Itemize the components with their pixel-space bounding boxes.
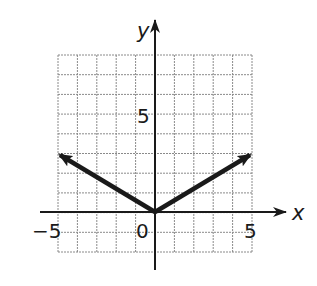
coordinate-plane: y x −5 0 5 5 — [0, 0, 317, 286]
curve-left-ray — [60, 155, 155, 212]
x-tick-label-neg5: −5 — [32, 219, 61, 243]
x-axis-label: x — [291, 201, 305, 225]
x-tick-label-pos5: 5 — [244, 219, 257, 243]
curve-right-ray — [155, 155, 250, 212]
y-tick-label-5: 5 — [137, 104, 150, 128]
y-axis-label: y — [136, 19, 150, 43]
origin-label: 0 — [136, 219, 149, 243]
